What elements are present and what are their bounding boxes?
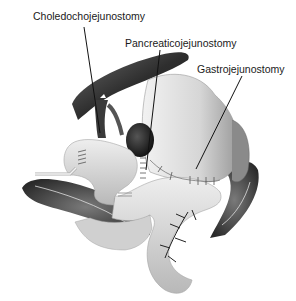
diagram-canvas: Choledochojejunostomy Pancreaticojejunos…: [0, 0, 296, 301]
label-pancreaticojejunostomy: Pancreaticojejunostomy: [125, 37, 236, 49]
stomach: [142, 74, 249, 182]
label-choledochojejunostomy: Choledochojejunostomy: [33, 10, 145, 22]
label-gastrojejunostomy: Gastrojejunostomy: [197, 63, 285, 75]
